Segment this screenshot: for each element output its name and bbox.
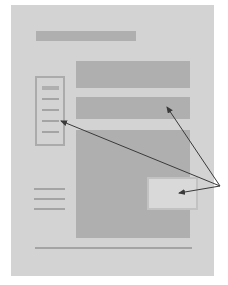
arrow-to-sidebar-icon [61, 121, 220, 186]
arrow-to-overlay-icon [179, 186, 220, 193]
arrows [0, 0, 228, 285]
arrow-to-second-block-icon [167, 107, 220, 186]
